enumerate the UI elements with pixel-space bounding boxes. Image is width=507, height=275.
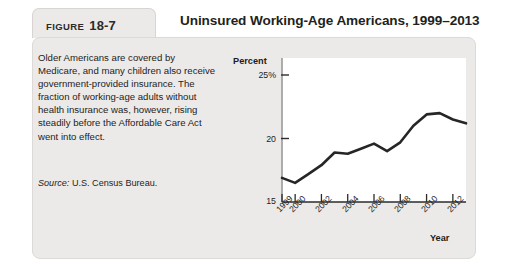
x-axis-title: Year — [430, 233, 449, 243]
y-tick-label-25: 25% — [236, 70, 276, 80]
plot-background — [282, 58, 466, 202]
figure-number-tab: FIGURE18-7 — [32, 8, 156, 38]
y-tick-label-20: 20 — [236, 134, 276, 144]
figure-number-label: 18-7 — [89, 18, 115, 33]
figure-caption: Older Americans are covered by Medicare,… — [38, 51, 216, 143]
figure-header: FIGURE18-7 Uninsured Working-Age America… — [32, 8, 476, 38]
source-text: U.S. Census Bureau. — [72, 178, 157, 188]
figure-source: Source: U.S. Census Bureau. — [38, 178, 228, 188]
figure-word-label: FIGURE — [46, 21, 84, 32]
figure-screenshot: FIGURE18-7 Uninsured Working-Age America… — [0, 0, 507, 275]
figure-tab-text: FIGURE18-7 — [46, 16, 116, 34]
source-label: Source: — [38, 178, 69, 188]
y-tick-label-15: 15 — [236, 196, 276, 206]
y-axis-title: Percent — [233, 56, 267, 66]
figure-title: Uninsured Working-Age Americans, 1999–20… — [180, 13, 480, 28]
